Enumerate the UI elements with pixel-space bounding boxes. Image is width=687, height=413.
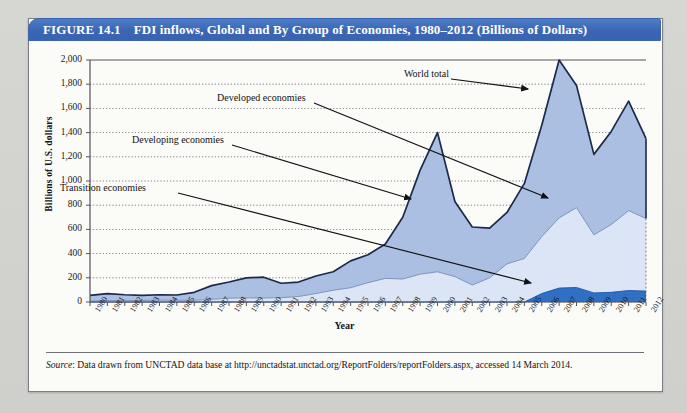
figure-page: FIGURE 14.1FDI inflows, Global and By Gr… xyxy=(0,0,687,413)
y-axis-tick-label: 1,600 xyxy=(40,102,82,112)
figure-number: FIGURE 14.1 xyxy=(43,22,121,37)
y-axis-tick-label: 200 xyxy=(40,272,82,282)
annotation-transition: Transition economies xyxy=(60,182,146,193)
y-axis-tick-label: 400 xyxy=(40,248,82,258)
chart-plot-area: Billions of U.S. dollars Year 0200400600… xyxy=(28,41,661,346)
y-axis-tick-label: 1,200 xyxy=(40,151,82,161)
y-axis-tick-label: 2,000 xyxy=(40,54,82,64)
figure-title-text: FDI inflows, Global and By Group of Econ… xyxy=(134,22,588,37)
y-axis-tick-label: 1,400 xyxy=(40,127,82,137)
figure-title: FIGURE 14.1FDI inflows, Global and By Gr… xyxy=(43,22,587,38)
annotation-developing: Developing economies xyxy=(132,134,224,145)
y-axis-tick-label: 1,800 xyxy=(40,78,82,88)
y-axis-tick-label: 0 xyxy=(40,296,82,306)
source-note: Source: Data drawn from UNCTAD data base… xyxy=(46,358,646,372)
annotation-world-total: World total xyxy=(404,68,449,79)
source-divider xyxy=(46,352,644,353)
source-label: Source xyxy=(46,359,72,370)
y-axis-tick-label: 800 xyxy=(40,199,82,209)
figure-title-bar: FIGURE 14.1FDI inflows, Global and By Gr… xyxy=(28,18,661,41)
annotation-developed: Developed economies xyxy=(217,92,306,103)
y-axis-tick-label: 600 xyxy=(40,223,82,233)
source-text: : Data drawn from UNCTAD data base at ht… xyxy=(72,359,572,370)
